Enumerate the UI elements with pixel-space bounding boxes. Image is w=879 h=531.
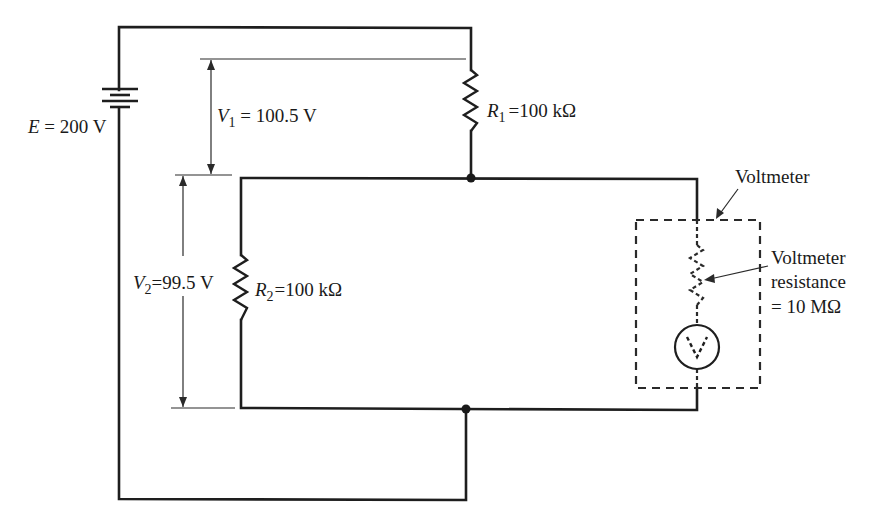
voltmeter-resistance-icon [690,245,703,305]
r1-label: R1=100 kΩ [486,100,576,125]
v1-label: V1 = 100.5 V [217,105,317,130]
inner-bottom-wire [241,320,697,410]
r2-label: R2=100 kΩ [254,279,342,304]
battery-icon [102,89,138,107]
voltmeter-resistance-label-line2: resistance [771,271,846,292]
top-junction-node [467,174,476,183]
resistance-pointer-arrow-icon [704,266,768,283]
left-bottom-wire [119,108,466,500]
r2-resistor-icon [234,255,247,320]
voltmeter-meter-icon [675,325,719,369]
v2-label: V2=99.5 V [133,272,214,297]
circuit-diagram: E = 200 V R1=100 kΩ R2=100 kΩ V1 = 100.5… [0,0,879,531]
voltmeter-pointer-arrow-icon [716,189,738,219]
r1-resistor-icon [464,70,477,131]
voltmeter-label: Voltmeter [735,166,810,187]
bottom-junction-node [462,405,471,414]
voltmeter-resistance-label-line1: Voltmeter [771,247,846,268]
inner-top-wire [241,178,697,255]
outer-loop-wires [119,27,471,500]
source-label: E = 200 V [27,116,107,137]
voltmeter-resistance-value: = 10 MΩ [771,296,841,317]
